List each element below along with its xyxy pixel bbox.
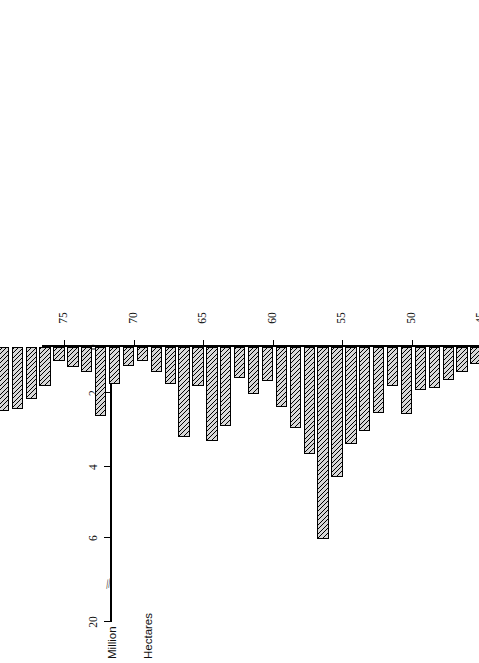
- bar-1957: [304, 347, 315, 454]
- bar-1952: [373, 347, 384, 413]
- year-tick-label-45: 45: [475, 298, 479, 338]
- bar-1956: [317, 347, 328, 539]
- bar-1965: [192, 347, 203, 387]
- bar-1979: [0, 347, 9, 411]
- bar-1947: [443, 347, 454, 380]
- bar-1967: [165, 347, 176, 384]
- bar-1962: [234, 347, 245, 378]
- bar-1953: [359, 347, 370, 431]
- bar-1945: [470, 347, 479, 364]
- top-tick-6: [104, 537, 110, 538]
- year-axis-line: [42, 345, 479, 347]
- bar-1974: [67, 347, 78, 367]
- bar-1972: [95, 347, 106, 416]
- year-tick-label-50: 50: [406, 298, 417, 338]
- bar-1958: [290, 347, 301, 429]
- year-tick-70: [134, 340, 135, 346]
- figure-page: Million Hectares 20 6 4 2 0 ∕∕ Million A…: [0, 0, 479, 663]
- top-tick-4: [104, 466, 110, 467]
- year-tick-label-55: 55: [336, 298, 347, 338]
- bar-1949: [415, 347, 426, 390]
- bar-1966: [178, 347, 189, 437]
- year-tick-60: [273, 340, 274, 346]
- top-tick-20: [104, 621, 110, 622]
- top-axis-title-l2: Hectares: [142, 589, 154, 659]
- year-tick-label-75: 75: [58, 298, 69, 338]
- top-axis-title-l1: Million: [106, 589, 118, 659]
- year-tick-label-70: 70: [128, 298, 139, 338]
- year-tick-65: [203, 340, 204, 346]
- year-tick-label-65: 65: [197, 298, 208, 338]
- bar-1963: [220, 347, 231, 426]
- bar-1975: [53, 347, 64, 361]
- bar-1969: [137, 347, 148, 361]
- top-tick-label-4: 4: [88, 447, 99, 487]
- bar-1968: [151, 347, 162, 373]
- bar-1978: [12, 347, 23, 409]
- year-tick-50: [412, 340, 413, 346]
- bar-1954: [345, 347, 356, 444]
- bar-1970: [123, 347, 134, 366]
- bar-1971: [109, 347, 120, 384]
- bar-1946: [456, 347, 467, 373]
- chart-stage: Million Hectares 20 6 4 2 0 ∕∕ Million A…: [0, 0, 479, 663]
- year-tick-75: [64, 340, 65, 346]
- bar-1973: [81, 347, 92, 373]
- bar-1960: [262, 347, 273, 381]
- bar-1961: [248, 347, 259, 394]
- top-axis-line: [110, 346, 112, 622]
- top-tick-label-20: 20: [88, 602, 99, 642]
- bar-1950: [401, 347, 412, 415]
- bar-1977: [26, 347, 37, 399]
- bar-1976: [39, 347, 50, 387]
- bar-1955: [331, 347, 342, 477]
- year-tick-55: [342, 340, 343, 346]
- top-tick-label-6: 6: [88, 518, 99, 558]
- bar-1959: [276, 347, 287, 407]
- bar-1964: [206, 347, 217, 441]
- year-tick-label-60: 60: [267, 298, 278, 338]
- bar-1951: [387, 347, 398, 387]
- bar-1948: [429, 347, 440, 388]
